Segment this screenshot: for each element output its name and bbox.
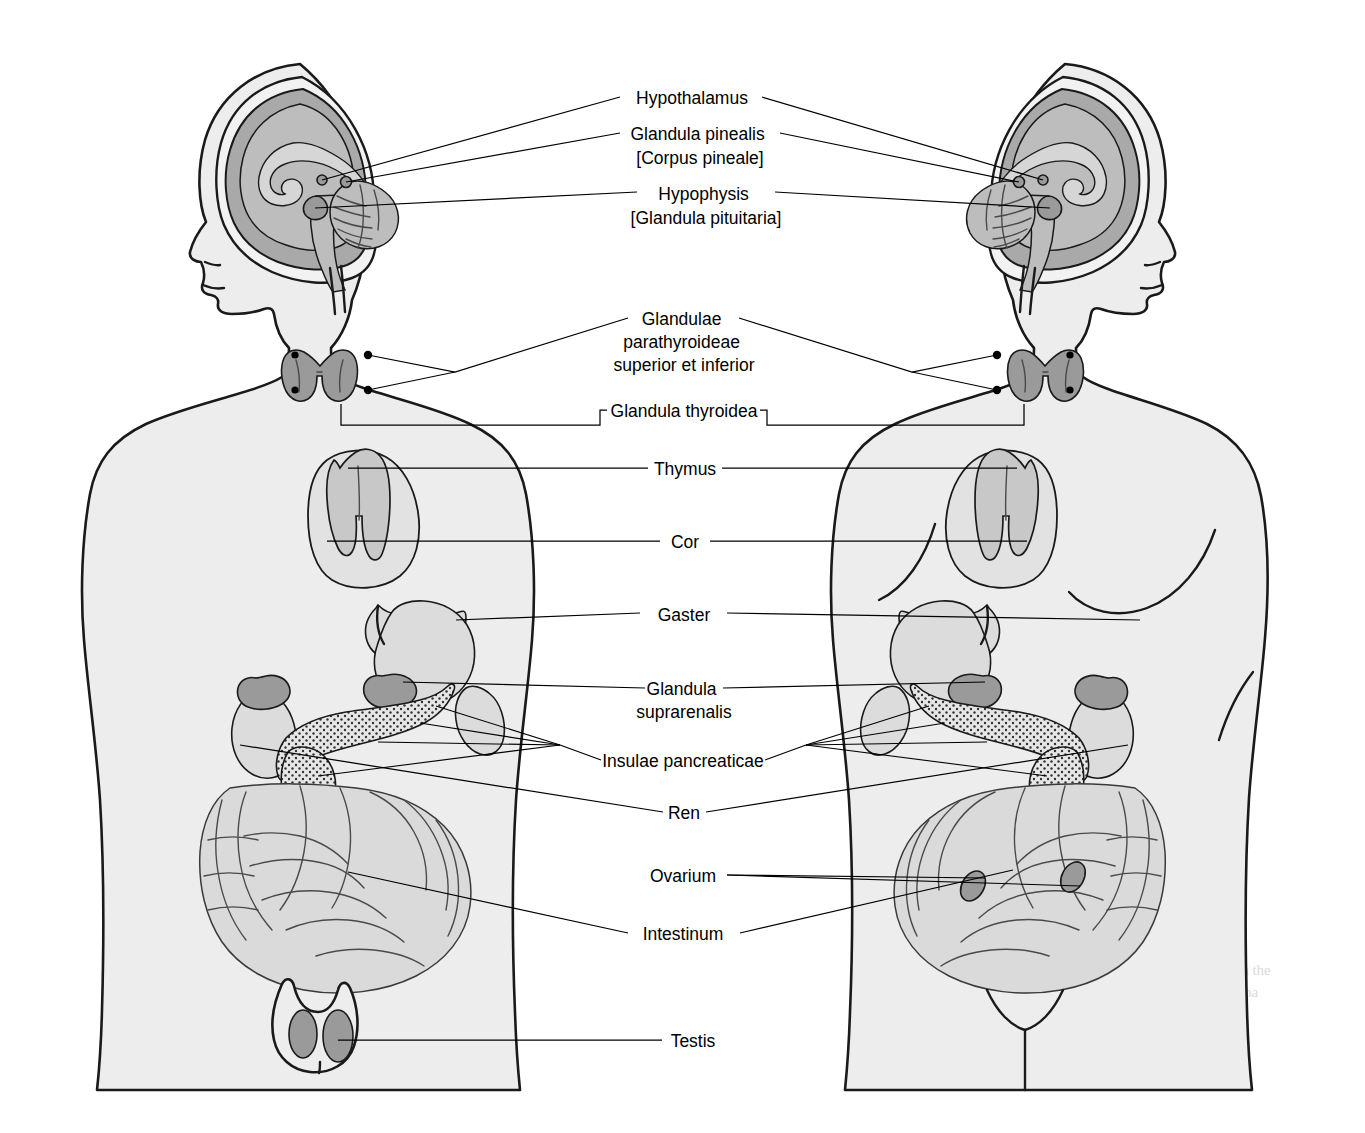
- female-parathyroid-superior-left: [1066, 351, 1073, 358]
- leader-parathyroid-right-b: [912, 372, 997, 390]
- label-insulae-pancreaticae: Insulae pancreaticae: [602, 751, 764, 771]
- male-scrotal-raphe: [319, 1062, 320, 1073]
- label-ovarium: Ovarium: [650, 866, 716, 886]
- label-hypothalamus: Hypothalamus: [636, 88, 748, 108]
- label-column: Hypothalamus Glandula pinealis [Corpus p…: [602, 88, 781, 1051]
- label-glandula-suprarenalis: Glandula suprarenalis: [636, 679, 732, 722]
- male-intestines: [200, 784, 471, 993]
- leader-pineal-right: [780, 133, 1019, 182]
- female-parathyroid-inferior-left: [1066, 386, 1073, 393]
- leader-pineal-left: [346, 133, 620, 182]
- male-adrenal-right: [237, 675, 290, 709]
- leader-insulae-right-main: [765, 745, 806, 760]
- label-testis: Testis: [671, 1031, 716, 1051]
- label-glandula-pinealis: Glandula pinealis [Corpus pineale]: [630, 124, 769, 168]
- leader-parathyroid-right-a: [739, 318, 997, 372]
- label-ren: Ren: [668, 803, 700, 823]
- label-thymus: Thymus: [654, 459, 716, 479]
- label-cor: Cor: [671, 532, 699, 552]
- label-gaster: Gaster: [658, 605, 711, 625]
- label-glandula-thyroidea: Glandula thyroidea: [611, 401, 758, 421]
- anatomical-plate: with the the pa ple: [0, 0, 1365, 1133]
- male-testis-left: [289, 1010, 317, 1058]
- label-hypophysis: Hypophysis [Glandula pituitaria]: [631, 184, 782, 228]
- leader-insulae-left-main: [560, 745, 601, 760]
- male-parathyroid-superior-left: [291, 351, 298, 358]
- leader-parathyroid-left-b: [368, 372, 455, 390]
- male-parathyroid-inferior-left: [291, 386, 298, 393]
- female-adrenal-right: [1075, 675, 1128, 709]
- male-testis-right: [323, 1010, 353, 1062]
- female-figure: [831, 64, 1268, 1090]
- leader-parathyroid-left-a: [368, 318, 628, 372]
- figure-svg: with the the pa ple: [0, 0, 1365, 1133]
- label-glandulae-parathyroideae: Glandulae parathyroideae superior et inf…: [613, 309, 754, 375]
- leader-hypothalamus-left: [322, 97, 620, 180]
- male-figure: [82, 64, 534, 1090]
- label-intestinum: Intestinum: [643, 924, 724, 944]
